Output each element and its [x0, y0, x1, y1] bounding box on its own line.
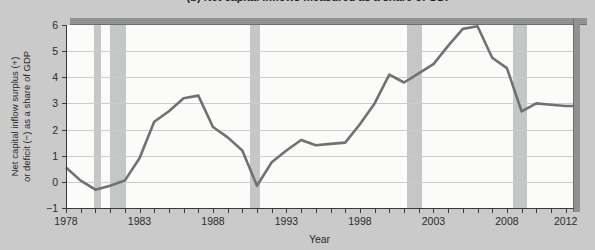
y-tick-label: 1	[32, 150, 58, 162]
x-axis-tick	[536, 209, 537, 213]
x-axis-tick	[389, 209, 390, 213]
x-axis-tick	[125, 209, 126, 213]
x-axis-tick	[566, 209, 567, 213]
x-axis-tick	[448, 209, 449, 213]
x-tick-label: 2003	[411, 215, 455, 227]
x-axis-tick	[478, 209, 479, 213]
gridline	[67, 156, 573, 157]
frame-top-bar	[70, 18, 587, 25]
x-axis-tick	[345, 209, 346, 213]
recession-band	[513, 25, 528, 208]
gridline	[67, 130, 573, 131]
y-tick-label: 5	[32, 45, 58, 57]
x-axis-tick	[360, 209, 361, 213]
gridline	[67, 51, 573, 52]
x-axis-tick	[228, 209, 229, 213]
gridline	[67, 77, 573, 78]
x-axis-tick	[419, 209, 420, 213]
x-tick-label: 1993	[264, 215, 308, 227]
x-axis-tick	[331, 209, 332, 213]
plot-area	[66, 25, 573, 208]
recession-band	[407, 25, 422, 208]
y-axis-label-line1: Net capital inflow surplus (+)	[9, 31, 21, 203]
y-axis-tick	[62, 25, 66, 26]
x-axis-tick	[463, 209, 464, 213]
x-axis-tick	[286, 209, 287, 213]
x-axis-tick	[316, 209, 317, 213]
y-tick-label: −1	[32, 202, 58, 214]
recession-band	[250, 25, 260, 208]
x-axis-tick	[184, 209, 185, 213]
x-axis-tick	[66, 209, 67, 213]
frame-right-bar	[573, 18, 580, 212]
y-axis-tick	[62, 103, 66, 104]
x-axis-tick	[301, 209, 302, 213]
x-axis-tick	[551, 209, 552, 213]
x-axis-tick	[213, 209, 214, 213]
x-axis-label: Year	[66, 233, 573, 245]
gridline	[67, 103, 573, 104]
x-axis-tick	[169, 209, 170, 213]
x-axis-spine	[66, 208, 574, 209]
x-tick-label: 1978	[44, 215, 88, 227]
x-axis-tick	[272, 209, 273, 213]
y-axis-label: Net capital inflow surplus (+) or defici…	[9, 31, 32, 203]
x-axis-tick	[375, 209, 376, 213]
x-axis-tick	[492, 209, 493, 213]
recession-band	[110, 25, 126, 208]
x-tick-label: 1983	[118, 215, 162, 227]
y-axis-tick	[62, 77, 66, 78]
y-tick-label: 6	[32, 19, 58, 31]
x-tick-label: 2012	[544, 215, 588, 227]
x-axis-tick	[404, 209, 405, 213]
figure-title: (b) Net capital inflows measured as a sh…	[66, 0, 573, 3]
figure-net-capital-inflows: (b) Net capital inflows measured as a sh…	[0, 0, 595, 250]
x-axis-tick	[140, 209, 141, 213]
y-tick-label: 2	[32, 124, 58, 136]
x-axis-tick	[433, 209, 434, 213]
y-axis-tick	[62, 130, 66, 131]
x-tick-label: 1988	[191, 215, 235, 227]
gridline	[67, 182, 573, 183]
y-axis-spine	[66, 25, 67, 208]
x-axis-tick	[154, 209, 155, 213]
y-axis-label-line2: or deficit (−) as a share of GDP	[20, 31, 32, 203]
y-tick-label: 4	[32, 71, 58, 83]
x-axis-tick	[257, 209, 258, 213]
x-axis-tick	[522, 209, 523, 213]
x-axis-tick	[95, 209, 96, 213]
x-axis-tick	[242, 209, 243, 213]
y-tick-label: 3	[32, 97, 58, 109]
x-axis-tick	[110, 209, 111, 213]
x-axis-tick	[81, 209, 82, 213]
y-axis-tick	[62, 182, 66, 183]
recession-band	[94, 25, 101, 208]
x-tick-label: 1998	[338, 215, 382, 227]
x-axis-tick	[507, 209, 508, 213]
y-axis-tick	[62, 51, 66, 52]
y-tick-label: 0	[32, 176, 58, 188]
x-tick-label: 2008	[485, 215, 529, 227]
y-axis-tick	[62, 156, 66, 157]
x-axis-tick	[198, 209, 199, 213]
